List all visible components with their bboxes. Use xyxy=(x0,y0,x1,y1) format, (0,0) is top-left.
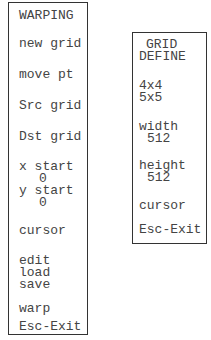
menu-item-5x5[interactable]: 5x5 xyxy=(139,91,162,105)
warping-menu-title: WARPING xyxy=(19,9,74,23)
y-start-value: 0 xyxy=(39,196,47,210)
grid-define-menu-panel: GRID DEFINE 4x4 5x5 width 512 height 512… xyxy=(132,32,207,244)
menu-item-esc-exit[interactable]: Esc-Exit xyxy=(139,223,201,237)
menu-item-save[interactable]: save xyxy=(19,278,50,292)
menu-item-cursor[interactable]: cursor xyxy=(139,199,186,213)
menu-item-new-grid[interactable]: new grid xyxy=(19,37,81,51)
menu-item-cursor[interactable]: cursor xyxy=(19,224,66,238)
menu-item-dst-grid[interactable]: Dst grid xyxy=(19,130,81,144)
menu-item-move-pt[interactable]: move pt xyxy=(19,68,74,82)
menu-item-esc-exit[interactable]: Esc-Exit xyxy=(19,320,81,334)
width-value: 512 xyxy=(147,132,170,146)
menu-item-src-grid[interactable]: Src grid xyxy=(19,99,81,113)
grid-define-title-line2: DEFINE xyxy=(139,50,186,64)
height-value: 512 xyxy=(147,171,170,185)
warping-menu-panel: WARPING new grid move pt Src grid Dst gr… xyxy=(8,2,88,335)
menu-item-warp[interactable]: warp xyxy=(19,302,50,316)
